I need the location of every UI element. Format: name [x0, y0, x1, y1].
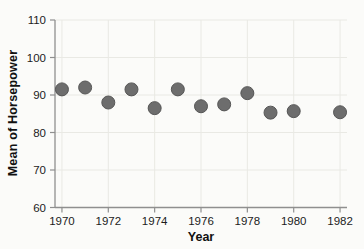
x-tick-label: 1976 [188, 215, 214, 227]
data-point [264, 106, 277, 119]
data-point [195, 100, 208, 113]
y-tick-label: 70 [33, 164, 46, 176]
data-point [148, 102, 161, 115]
horsepower-by-year-scatter-chart: 6070809010011019701972197419761978198019… [0, 0, 364, 249]
data-point [287, 105, 300, 118]
chart-svg: 6070809010011019701972197419761978198019… [0, 0, 364, 249]
data-point [125, 83, 138, 96]
y-tick-label: 90 [33, 89, 46, 101]
data-point [55, 83, 68, 96]
data-point [334, 106, 347, 119]
x-tick-label: 1974 [142, 215, 168, 227]
x-tick-label: 1972 [96, 215, 122, 227]
y-tick-label: 60 [33, 202, 46, 214]
data-point [241, 87, 254, 100]
data-point [102, 96, 115, 109]
y-axis-title: Mean of Horsepower [6, 50, 20, 177]
data-point [79, 81, 92, 94]
x-tick-label: 1978 [235, 215, 261, 227]
y-tick-label: 110 [28, 14, 46, 26]
x-tick-label: 1980 [281, 215, 307, 227]
y-tick-label: 100 [27, 52, 46, 64]
data-point [218, 98, 231, 111]
data-point [171, 83, 184, 96]
y-tick-label: 80 [33, 127, 46, 139]
x-tick-label: 1970 [49, 215, 75, 227]
x-axis-title: Year [188, 230, 214, 244]
x-tick-label: 1982 [327, 215, 353, 227]
